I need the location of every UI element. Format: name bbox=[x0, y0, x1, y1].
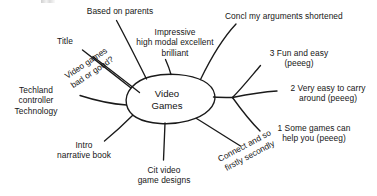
branch-label-very-easy-to-carry: 2 Very easy to carry around (peeeg) bbox=[279, 83, 377, 104]
branch-line-impressive-high-modal bbox=[166, 60, 172, 75]
branch-label-fun-and-easy: 3 Fun and easy (peeeg) bbox=[256, 48, 342, 69]
branch-line-intro-narrative-book bbox=[105, 116, 133, 142]
branch-label-title: Title bbox=[48, 36, 82, 46]
branch-label-cit-video-game-designs: Cit video game designs bbox=[120, 165, 208, 186]
branch-stem-right bbox=[214, 97, 233, 98]
branch-label-concl-my-arguments: Concl my arguments shortened bbox=[225, 11, 377, 21]
branch-line-connect-and-so bbox=[197, 119, 241, 147]
branch-line-cit-video-game-designs bbox=[164, 123, 166, 160]
branch-label-techland-controller: Techland controller Technology bbox=[5, 85, 67, 116]
mind-map-canvas: Video Games Title Video games bad or goo… bbox=[0, 0, 377, 196]
branch-label-impressive-high-modal: Impressive high modal excellent brillian… bbox=[123, 27, 227, 58]
branch-line-techland-controller bbox=[80, 96, 127, 106]
branch-line-some-games-can-help bbox=[233, 98, 261, 132]
branch-label-intro-narrative-book: Intro narrative book bbox=[40, 140, 128, 161]
branch-line-very-easy-to-carry bbox=[233, 91, 278, 98]
center-node-label: Video Games bbox=[137, 88, 197, 112]
branch-label-based-on-parents: Based on parents bbox=[74, 6, 166, 16]
